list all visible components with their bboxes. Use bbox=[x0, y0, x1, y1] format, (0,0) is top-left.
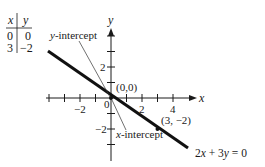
origin-point-label: (0,0) bbox=[116, 81, 137, 94]
table-header-x: x bbox=[7, 13, 14, 27]
y-intercept-label: y-intercept bbox=[49, 29, 97, 41]
table-cell: 3 bbox=[7, 41, 13, 55]
x-tick-label: −2 bbox=[74, 103, 86, 115]
table-header-y: y bbox=[22, 13, 29, 27]
y-axis-label: y bbox=[107, 13, 114, 27]
x-axis-label: x bbox=[198, 91, 205, 105]
graph-figure: x y 0 0 3 −2 x −2 0 2 4 y bbox=[0, 0, 265, 167]
origin-zero-label: 0 bbox=[104, 98, 110, 110]
y-axis-arrow-icon bbox=[108, 28, 114, 36]
y-tick-label: −2 bbox=[95, 123, 107, 135]
x-axis-arrow-icon bbox=[189, 95, 197, 101]
value-table: x y 0 0 3 −2 bbox=[6, 13, 33, 55]
y-tick-label: 2 bbox=[100, 61, 106, 73]
x-intercept-label: x-intercept bbox=[115, 128, 163, 140]
point-3-neg2-label: (3, −2) bbox=[161, 114, 191, 127]
table-cell: −2 bbox=[20, 41, 33, 55]
equation-label: 2x + 3y = 0 bbox=[195, 147, 247, 160]
